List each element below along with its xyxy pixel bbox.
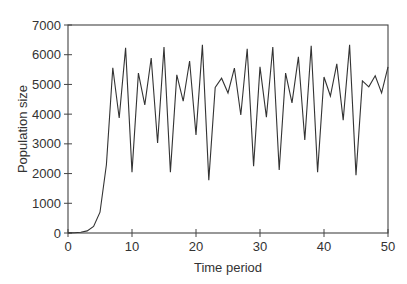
x-tick-label: 0 bbox=[64, 239, 71, 254]
y-axis: 01000200030004000500060007000 bbox=[32, 18, 72, 241]
y-tick-label: 6000 bbox=[32, 47, 61, 62]
plot-border bbox=[68, 25, 388, 233]
plot-frame bbox=[68, 25, 388, 233]
x-tick-label: 40 bbox=[317, 239, 331, 254]
population-line-chart: 01000200030004000500060007000 0102030405… bbox=[0, 0, 407, 284]
y-tick-label: 1000 bbox=[32, 196, 61, 211]
y-tick-label: 2000 bbox=[32, 166, 61, 181]
x-axis-title: Time period bbox=[194, 260, 262, 275]
y-tick-label: 5000 bbox=[32, 77, 61, 92]
x-tick-label: 20 bbox=[189, 239, 203, 254]
y-tick-label: 0 bbox=[54, 226, 61, 241]
x-tick-label: 30 bbox=[253, 239, 267, 254]
population-series-line bbox=[68, 45, 388, 233]
x-tick-label: 10 bbox=[125, 239, 139, 254]
y-tick-label: 4000 bbox=[32, 107, 61, 122]
x-tick-label: 50 bbox=[381, 239, 395, 254]
y-axis-title: Population size bbox=[15, 85, 30, 173]
y-tick-label: 3000 bbox=[32, 136, 61, 151]
y-tick-label: 7000 bbox=[32, 18, 61, 33]
